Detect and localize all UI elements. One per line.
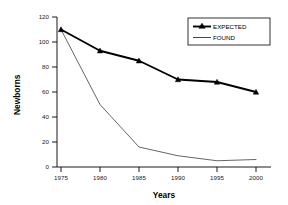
x-tick-label: 1980: [93, 174, 107, 181]
y-tick-label: 0: [46, 163, 50, 170]
y-tick-label: 40: [42, 113, 49, 120]
chart-figure: Newborns 0 20 40 60 80 100 120 1975: [0, 0, 288, 205]
x-axis-title: Years: [153, 190, 176, 200]
x-tick-label: 1975: [54, 174, 68, 181]
y-axis-title: Newborns: [12, 74, 22, 115]
y-tick-label: 20: [42, 138, 49, 145]
x-tick-label: 1990: [171, 174, 185, 181]
chart-legend: EXPECTED FOUND: [188, 18, 270, 45]
x-tick-label: 2000: [249, 174, 263, 181]
x-tick-label: 1995: [210, 174, 224, 181]
legend-label-expected: EXPECTED: [213, 23, 247, 30]
y-tick-label: 120: [39, 13, 50, 20]
series-line-found: [61, 30, 256, 161]
legend-label-found: FOUND: [213, 34, 236, 41]
y-tick-label: 100: [39, 38, 50, 45]
y-axis-ticks: 0 20 40 60 80 100 120: [39, 13, 57, 170]
y-tick-label: 80: [42, 63, 49, 70]
x-axis-ticks: 1975 1980 1985 1990 1995 2000: [54, 167, 263, 181]
x-tick-label: 1985: [132, 174, 146, 181]
y-tick-label: 60: [42, 88, 49, 95]
chart-canvas: Newborns 0 20 40 60 80 100 120 1975: [0, 0, 288, 205]
data-point-expected: [58, 27, 63, 32]
